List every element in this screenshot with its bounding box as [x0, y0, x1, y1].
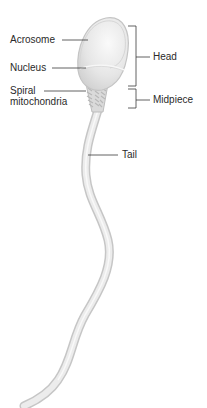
spiral-mitochondria-label-line2: mitochondria — [10, 96, 67, 107]
nucleus-label: Nucleus — [10, 62, 46, 73]
spiral-mitochondria-label-line1: Spiral — [10, 85, 36, 96]
head-shape — [78, 18, 129, 91]
tail-label: Tail — [122, 149, 137, 160]
midpiece-label: Midpiece — [153, 94, 193, 105]
sperm-diagram: Acrosome Nucleus Spiral mitochondria Hea… — [0, 0, 207, 408]
head-label: Head — [153, 51, 177, 62]
tail-shape — [24, 110, 109, 406]
head-bracket — [128, 26, 150, 86]
acrosome-label: Acrosome — [10, 34, 55, 45]
midpiece-bracket — [128, 89, 150, 108]
